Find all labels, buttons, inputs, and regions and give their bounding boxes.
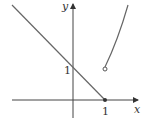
open-point — [103, 67, 107, 71]
y-tick-1: 1 — [64, 64, 71, 77]
y-axis-label: y — [61, 0, 69, 13]
x-axis-label: x — [134, 103, 141, 116]
closed-point — [103, 98, 107, 102]
graph: y x 1 1 — [0, 0, 153, 124]
x-tick-1: 1 — [102, 105, 109, 118]
line-piece — [12, 5, 105, 100]
curve-piece — [105, 5, 128, 67]
